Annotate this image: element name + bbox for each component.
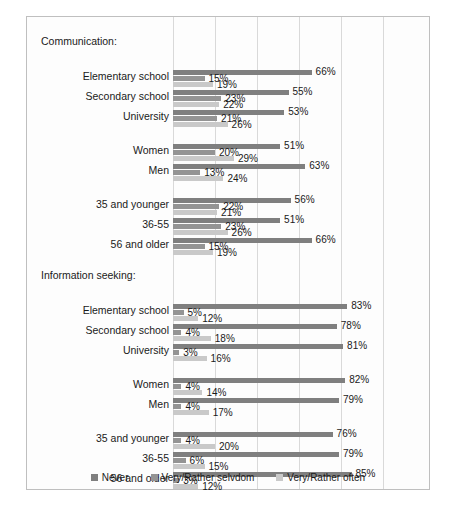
row-label: Elementary school (49, 304, 169, 316)
bar-value-label: 16% (211, 353, 231, 364)
chart-section: Communication:Elementary school66%15%19%… (27, 35, 429, 265)
bar-value-label: 63% (309, 160, 329, 171)
bar-very-rather-often (173, 122, 228, 127)
bar-very-rather-selvdom (173, 244, 205, 249)
row-label: University (49, 110, 169, 122)
bar-value-label: 55% (293, 86, 313, 97)
row-label: Women (49, 378, 169, 390)
chart-row: 56 and older66%15%19% (173, 237, 423, 257)
section-title: Information seeking: (41, 269, 136, 281)
bar-very-rather-often (173, 102, 219, 107)
bar-very-rather-selvdom (173, 76, 205, 81)
bar-very-rather-often (173, 444, 215, 449)
bar-very-rather-often (173, 230, 228, 235)
chart-row: 36-5579%6%15% (173, 451, 423, 471)
section-title: Communication: (41, 35, 117, 47)
legend-swatch-icon (276, 474, 283, 481)
bar-never (173, 70, 312, 75)
bar-never (173, 238, 312, 243)
bar-value-label: 56% (295, 194, 315, 205)
row-label: Elementary school (49, 70, 169, 82)
bar-value-label: 26% (232, 119, 252, 130)
chart-frame: Communication:Elementary school66%15%19%… (26, 16, 430, 490)
chart-row: Secondary school78%4%18% (173, 323, 423, 343)
bar-never (173, 344, 343, 349)
bar-very-rather-often (173, 410, 209, 415)
legend-swatch-icon (91, 474, 98, 481)
bar-very-rather-often (173, 156, 234, 161)
bar-very-rather-often (173, 390, 202, 395)
bar-value-label: 81% (347, 340, 367, 351)
chart-row: University53%21%26% (173, 109, 423, 129)
bar-value-label: 82% (349, 374, 369, 385)
bar-value-label: 24% (227, 173, 247, 184)
legend-label: Never (102, 472, 129, 483)
bar-very-rather-selvdom (173, 170, 200, 175)
bar-very-rather-selvdom (173, 384, 181, 389)
bar-value-label: 19% (217, 247, 237, 258)
bar-very-rather-selvdom (173, 330, 181, 335)
bar-very-rather-selvdom (173, 116, 217, 121)
row-label: Men (49, 164, 169, 176)
bar-value-label: 79% (343, 394, 363, 405)
bar-very-rather-selvdom (173, 204, 219, 209)
chart-legend: NeverVery/Rather selvdomVery/Rather ofte… (27, 472, 429, 483)
legend-item-very-rather-selvdom[interactable]: Very/Rather selvdom (151, 472, 255, 483)
bar-very-rather-often (173, 464, 205, 469)
bar-very-rather-selvdom (173, 458, 186, 463)
section-plot: Elementary school66%15%19%Secondary scho… (173, 35, 423, 265)
row-label: Secondary school (49, 324, 169, 336)
bar-very-rather-selvdom (173, 96, 221, 101)
bar-value-label: 83% (351, 300, 371, 311)
section-plot: Elementary school83%5%12%Secondary schoo… (173, 269, 423, 499)
row-label: 36-55 (49, 452, 169, 464)
legend-item-very-rather-often[interactable]: Very/Rather often (276, 472, 365, 483)
bar-value-label: 53% (288, 106, 308, 117)
chart-row: Men63%13%24% (173, 163, 423, 183)
legend-label: Very/Rather often (287, 472, 365, 483)
bar-very-rather-often (173, 210, 217, 215)
bar-very-rather-selvdom (173, 224, 221, 229)
bar-very-rather-often (173, 336, 211, 341)
bar-very-rather-often (173, 484, 198, 489)
legend-label: Very/Rather selvdom (162, 472, 255, 483)
bar-never (173, 164, 305, 169)
bar-value-label: 51% (284, 140, 304, 151)
bar-very-rather-often (173, 250, 213, 255)
bar-value-label: 66% (316, 234, 336, 245)
bar-very-rather-often (173, 316, 198, 321)
bar-value-label: 79% (343, 448, 363, 459)
chart-row: University81%3%16% (173, 343, 423, 363)
legend-swatch-icon (151, 474, 158, 481)
bar-value-label: 51% (284, 214, 304, 225)
chart-row: Women51%20%29% (173, 143, 423, 163)
chart-row: Elementary school83%5%12% (173, 303, 423, 323)
row-label: Secondary school (49, 90, 169, 102)
row-label: 35 and younger (49, 198, 169, 210)
bar-value-label: 17% (213, 407, 233, 418)
bar-value-label: 66% (316, 66, 336, 77)
row-label: University (49, 344, 169, 356)
chart-section: Information seeking:Elementary school83%… (27, 269, 429, 499)
bar-very-rather-selvdom (173, 438, 181, 443)
chart-row: Women82%4%14% (173, 377, 423, 397)
row-label: 36-55 (49, 218, 169, 230)
bar-very-rather-often (173, 356, 207, 361)
bar-very-rather-selvdom (173, 150, 215, 155)
bar-very-rather-often (173, 176, 223, 181)
chart-row: Men79%4%17% (173, 397, 423, 417)
chart-row: 35 and younger76%4%20% (173, 431, 423, 451)
bar-very-rather-often (173, 82, 213, 87)
bar-very-rather-selvdom (173, 310, 184, 315)
row-label: Men (49, 398, 169, 410)
legend-item-never[interactable]: Never (91, 472, 129, 483)
bar-very-rather-selvdom (173, 350, 179, 355)
bar-value-label: 78% (341, 320, 361, 331)
row-label: 35 and younger (49, 432, 169, 444)
bar-value-label: 76% (337, 428, 357, 439)
row-label: Women (49, 144, 169, 156)
bar-very-rather-selvdom (173, 404, 181, 409)
row-label: 56 and older (49, 238, 169, 250)
chart-row: 36-5551%23%26% (173, 217, 423, 237)
